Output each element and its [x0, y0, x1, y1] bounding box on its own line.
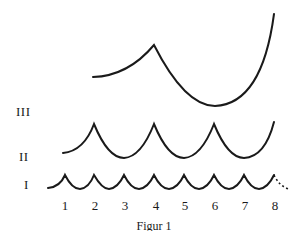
x-label-4: 4	[153, 198, 160, 213]
figure-caption: Figur 1	[136, 219, 171, 231]
curve-label-iii: III	[16, 104, 31, 119]
x-label-5: 5	[182, 198, 189, 213]
curve-ii	[63, 122, 274, 158]
x-label-8: 8	[272, 198, 279, 213]
curve-i	[48, 175, 274, 189]
curve-i-dashed-continuation	[274, 175, 289, 189]
x-label-1: 1	[62, 198, 69, 213]
x-label-3: 3	[122, 198, 129, 213]
x-label-2: 2	[92, 198, 99, 213]
curve-label-i: I	[24, 177, 29, 192]
x-label-6: 6	[212, 198, 219, 213]
curve-iii	[93, 14, 274, 106]
x-label-7: 7	[242, 198, 249, 213]
curve-label-ii: II	[19, 149, 29, 164]
figure-canvas: III II I 1 2 3 4 5 6 7 8 Figur 1	[0, 0, 301, 231]
